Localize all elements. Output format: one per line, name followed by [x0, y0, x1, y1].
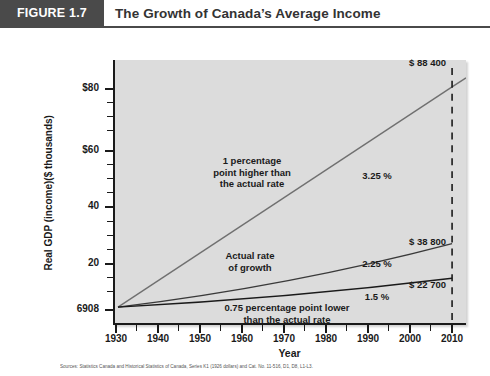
- y-tickmark-6908: [105, 309, 113, 311]
- x-tick-label-1930: 1930: [105, 333, 127, 344]
- rate-label-low: 1.5 %: [347, 291, 407, 303]
- x-tickmark-minor-8: [430, 325, 431, 331]
- x-tickmark-2000: [409, 325, 411, 333]
- y-tickmark-20: [105, 263, 113, 265]
- y-tick-label-60: $60: [82, 144, 99, 155]
- x-tickmark-1940: [157, 325, 159, 333]
- y-tickmark-40: [105, 206, 113, 208]
- annotation-upper-line1: 1 percentage: [187, 155, 317, 167]
- x-tickmark-1930: [115, 325, 117, 333]
- annotation-upper-line2: point higher than: [187, 167, 317, 179]
- y-axis-title: Real GDP (income)($ thousands): [43, 121, 54, 271]
- x-tickmark-1990: [367, 325, 369, 333]
- y-tick-label-6908: 6908: [77, 303, 99, 314]
- rate-label-high: 3.25 %: [347, 170, 407, 182]
- figure-number-tag: FIGURE 1.7: [0, 0, 104, 26]
- x-tickmark-1960: [241, 325, 243, 333]
- annotation-lower-line2: than the actual rate: [187, 314, 387, 326]
- y-tick-label-40: 40: [88, 200, 99, 211]
- x-tickmark-minor-2: [178, 325, 179, 331]
- y-tickmark-60: [105, 150, 113, 152]
- x-tickmark-1980: [325, 325, 327, 333]
- x-tickmark-2010: [451, 325, 453, 333]
- line-rate-high-extension: [452, 78, 466, 87]
- endpoint-label-88400: $ 88 400: [409, 57, 446, 68]
- line-rate-high: [118, 87, 452, 307]
- annotation-upper: 1 percentage point higher than the actua…: [187, 155, 317, 190]
- figure-container: FIGURE 1.7 The Growth of Canada’s Averag…: [0, 0, 490, 376]
- annotation-lower: 0.75 percentage point lower than the act…: [187, 302, 387, 325]
- x-tickmark-minor-4: [262, 325, 263, 331]
- x-tickmark-minor-5: [304, 325, 305, 331]
- x-tickmark-minor-1: [136, 325, 137, 331]
- annotation-lower-line1: 0.75 percentage point lower: [187, 302, 387, 314]
- y-tick-label-80: $80: [82, 82, 99, 93]
- x-tickmark-minor-6: [346, 325, 347, 331]
- annotation-actual: Actual rate of growth: [200, 250, 300, 273]
- x-tick-label-1990: 1990: [357, 333, 379, 344]
- y-tickmark-80: [105, 88, 113, 90]
- x-tickmark-1950: [199, 325, 201, 333]
- x-tickmark-1970: [283, 325, 285, 333]
- figure-source-note: Sources: Statistics Canada and Historica…: [60, 364, 480, 370]
- x-tickmark-minor-7: [388, 325, 389, 331]
- annotation-actual-line1: Actual rate: [200, 250, 300, 262]
- x-tick-label-1980: 1980: [315, 333, 337, 344]
- x-tick-label-1960: 1960: [231, 333, 253, 344]
- x-axis-title: Year: [113, 347, 466, 359]
- endpoint-label-22700: $ 22 700: [409, 279, 446, 290]
- annotation-actual-line2: of growth: [200, 262, 300, 274]
- figure-header: FIGURE 1.7 The Growth of Canada’s Averag…: [0, 0, 490, 26]
- header-divider: [0, 26, 490, 28]
- annotation-upper-line3: the actual rate: [187, 178, 317, 190]
- x-tick-label-1940: 1940: [147, 333, 169, 344]
- x-tick-label-2010: 2010: [441, 333, 463, 344]
- x-tick-label-1950: 1950: [189, 333, 211, 344]
- y-tick-label-20: 20: [88, 257, 99, 268]
- figure-title: The Growth of Canada’s Average Income: [115, 0, 381, 26]
- x-tick-label-1970: 1970: [273, 333, 295, 344]
- x-tickmark-minor-3: [220, 325, 221, 331]
- endpoint-label-38800: $ 38 800: [409, 236, 446, 247]
- x-tick-label-2000: 2000: [399, 333, 421, 344]
- rate-label-actual: 2.25 %: [347, 258, 407, 270]
